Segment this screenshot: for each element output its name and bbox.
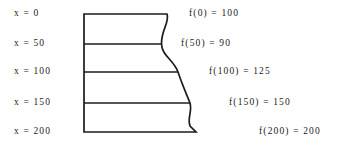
f-label-0: f(0) = 100 — [189, 9, 239, 19]
x-label-100: x = 100 — [14, 67, 51, 77]
f-label-50: f(50) = 90 — [181, 39, 231, 49]
x-label-0: x = 0 — [14, 9, 39, 19]
function-profile-diagram: x = 0 x = 50 x = 100 x = 150 x = 200 f(0… — [0, 0, 347, 151]
f-label-100: f(100) = 125 — [209, 67, 271, 77]
x-label-50: x = 50 — [14, 39, 45, 49]
f-label-200: f(200) = 200 — [259, 127, 321, 137]
f-label-150: f(150) = 150 — [229, 98, 291, 108]
profile-outline-path — [84, 14, 196, 132]
x-label-200: x = 200 — [14, 127, 51, 137]
x-label-150: x = 150 — [14, 98, 51, 108]
